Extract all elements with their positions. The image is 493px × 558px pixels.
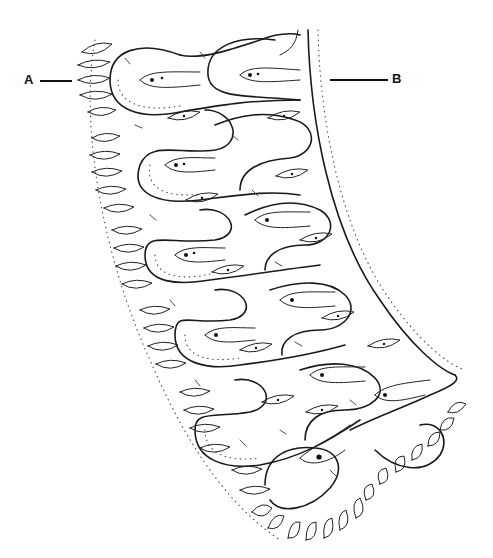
inner-spindle-cells bbox=[168, 111, 400, 414]
label-b-leader-line bbox=[330, 79, 388, 81]
stroma-dashes bbox=[125, 52, 356, 476]
serpentine-loops bbox=[110, 34, 457, 509]
label-a-leader-line bbox=[40, 80, 72, 82]
diagram-drawing bbox=[0, 0, 493, 558]
label-a: A bbox=[24, 72, 33, 87]
label-b: B bbox=[392, 71, 401, 86]
peripheral-spindle-cells bbox=[78, 43, 466, 540]
tissue-diagram: A B bbox=[0, 0, 493, 558]
right-boundary bbox=[308, 30, 455, 375]
loop-nuclei bbox=[140, 68, 430, 463]
